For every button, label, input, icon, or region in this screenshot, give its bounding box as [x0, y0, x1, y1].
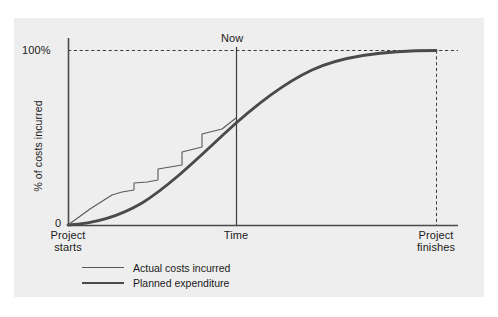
project-finishes-line1: Project [417, 229, 455, 241]
planned-expenditure-curve [68, 51, 436, 226]
legend-swatch-actual-costs-icon [82, 267, 124, 268]
x-tick-label-project-finishes: Project finishes [417, 229, 455, 253]
chart-legend: Actual costs incurred Planned expenditur… [82, 260, 230, 290]
legend-item-actual-costs: Actual costs incurred [82, 260, 230, 275]
actual-costs-line [68, 118, 236, 225]
figure-caption [14, 303, 484, 317]
project-finishes-line2: finishes [417, 241, 455, 253]
legend-label-planned-expenditure: Planned expenditure [133, 277, 229, 289]
legend-swatch-planned-expenditure-icon [82, 282, 124, 284]
figure-container: 100% 0 % of costs incurred Now Time Proj… [0, 0, 498, 317]
x-tick-label-project-starts: Project starts [51, 229, 86, 253]
project-starts-line1: Project [51, 229, 86, 241]
legend-label-actual-costs: Actual costs incurred [133, 262, 230, 274]
y-tick-label-zero: 0 [55, 217, 61, 229]
x-axis-title: Time [224, 229, 248, 241]
now-label: Now [221, 32, 243, 44]
project-starts-line2: starts [51, 241, 86, 253]
y-axis-title: % of costs incurred [32, 86, 44, 206]
legend-item-planned-expenditure: Planned expenditure [82, 275, 230, 290]
chart-plot-area [0, 0, 498, 317]
y-tick-label-100: 100% [22, 44, 51, 56]
